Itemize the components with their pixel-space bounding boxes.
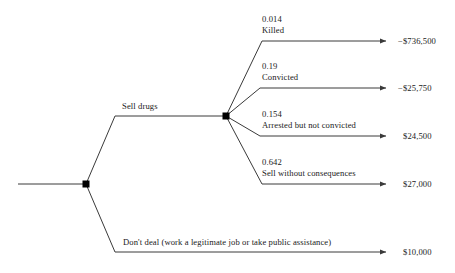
tree-lines bbox=[0, 0, 455, 273]
decision-tree-diagram: 0.014 Killed −$736,500 0.19 Convicted −$… bbox=[0, 0, 455, 273]
decision-node-root[interactable] bbox=[83, 181, 90, 188]
payoff-convicted: −$25,750 bbox=[398, 83, 432, 93]
outcome-arrested: Arrested but not convicted bbox=[262, 120, 356, 131]
probability-arrested: 0.154 bbox=[262, 109, 282, 120]
label-sell-drugs: Sell drugs bbox=[122, 101, 158, 111]
branch-convicted bbox=[226, 88, 386, 116]
branch-killed bbox=[226, 41, 386, 116]
branch-sell-drugs bbox=[86, 116, 226, 184]
outcome-no-consequences: Sell without consequences bbox=[262, 168, 356, 179]
label-dont-deal: Don't deal (work a legitimate job or tak… bbox=[123, 237, 331, 247]
probability-killed: 0.014 bbox=[262, 14, 282, 25]
outcome-convicted: Convicted bbox=[262, 72, 298, 83]
payoff-dont-deal: $10,000 bbox=[403, 247, 432, 257]
probability-convicted: 0.19 bbox=[262, 61, 277, 72]
payoff-killed: −$736,500 bbox=[398, 36, 436, 46]
chance-node-sell-drugs[interactable] bbox=[223, 113, 230, 120]
outcome-killed: Killed bbox=[262, 25, 284, 36]
payoff-arrested: $24,500 bbox=[403, 131, 432, 141]
payoff-no-consequences: $27,000 bbox=[403, 179, 432, 189]
probability-no-consequences: 0.642 bbox=[262, 157, 282, 168]
